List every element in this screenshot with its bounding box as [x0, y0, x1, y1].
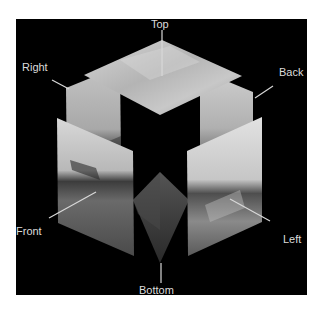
face-front — [57, 118, 134, 256]
leader-back — [255, 86, 273, 98]
label-bottom: Bottom — [139, 284, 174, 296]
face-left — [187, 117, 262, 256]
label-front: Front — [16, 225, 42, 237]
label-back: Back — [279, 66, 303, 78]
label-right: Right — [22, 61, 48, 73]
exploded-cube-diagram — [0, 0, 321, 310]
label-top: Top — [151, 18, 169, 30]
label-left: Left — [283, 233, 301, 245]
leader-right — [52, 80, 69, 89]
face-bottom — [133, 172, 189, 263]
